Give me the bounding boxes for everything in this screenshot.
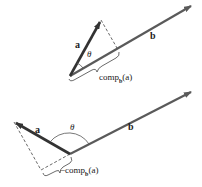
bottom-label-b: b [128, 121, 134, 132]
bottom-angle-arc [50, 133, 89, 144]
bottom-diagram: a θ b −compb(a) [14, 92, 191, 177]
bottom-vector-a [16, 123, 70, 154]
bottom-label-theta: θ [70, 122, 75, 132]
bottom-label-a: a [35, 124, 40, 135]
top-diagram: a θ b compb(a) [69, 6, 191, 84]
top-label-theta: θ [87, 49, 92, 59]
top-angle-arc [77, 63, 83, 68]
bottom-component-label: −compb(a) [60, 165, 98, 177]
top-label-a: a [75, 39, 80, 50]
top-perpendicular-dashed [101, 20, 117, 48]
top-label-b: b [150, 30, 156, 41]
vector-projection-diagram: a θ b compb(a) a θ b −compb(a) [0, 0, 202, 187]
top-component-label: compb(a) [99, 72, 132, 84]
